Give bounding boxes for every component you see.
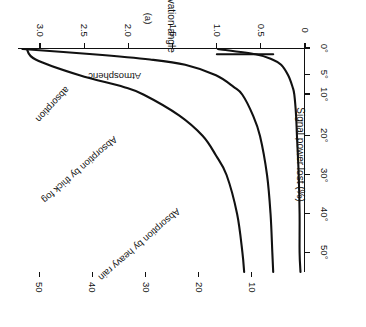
tick-label-power-loss-1: 2.5 bbox=[79, 24, 89, 37]
tick-power-loss-4 bbox=[216, 43, 217, 48]
tick-label-signal-power-1: 40 bbox=[88, 282, 98, 293]
tick-signal-power-4 bbox=[251, 272, 252, 277]
tick-elevation-6 bbox=[305, 252, 310, 253]
tick-power-loss-0 bbox=[40, 43, 41, 48]
tick-label-power-loss-0: 3.0 bbox=[35, 24, 45, 37]
tick-label-signal-power-2: 30 bbox=[141, 282, 151, 293]
tick-elevation-5 bbox=[305, 213, 310, 214]
tick-label-signal-power-0: 50 bbox=[35, 282, 45, 293]
tick-label-power-loss-5: 0.5 bbox=[256, 24, 266, 37]
tick-signal-power-3 bbox=[198, 272, 199, 277]
curve-label-atmospheric: Atmospheric bbox=[88, 71, 141, 82]
tick-label-power-loss-2: 2.0 bbox=[124, 24, 134, 37]
tick-elevation-2 bbox=[305, 93, 310, 94]
tick-label-elevation-3: 20° bbox=[319, 125, 329, 147]
tick-label-elevation-0: 0° bbox=[319, 37, 329, 59]
curve-absorption-heavy-rain bbox=[27, 49, 244, 272]
tick-signal-power-0 bbox=[39, 272, 40, 277]
tick-label-elevation-4: 30° bbox=[319, 164, 329, 186]
figure-root: Absorption by heavy rain Absorption by t… bbox=[0, 0, 366, 327]
figure-caption: (a) bbox=[143, 13, 154, 25]
plot-area: Absorption by heavy rain Absorption by t… bbox=[18, 48, 305, 272]
tick-label-elevation-2: 10° bbox=[319, 83, 329, 105]
tick-label-signal-power-4: 10 bbox=[247, 282, 257, 293]
tick-label-power-loss-4: 1.0 bbox=[212, 24, 222, 37]
tick-label-power-loss-6: 0 bbox=[300, 28, 310, 33]
figure-canvas: Absorption by heavy rain Absorption by t… bbox=[0, 0, 366, 327]
tick-label-elevation-5: 40° bbox=[319, 203, 329, 225]
tick-elevation-0 bbox=[305, 47, 310, 48]
curve-atmospheric-absorption bbox=[218, 49, 301, 272]
tick-label-elevation-6: 50° bbox=[319, 242, 329, 264]
tick-power-loss-2 bbox=[128, 43, 129, 48]
curves-layer bbox=[18, 49, 304, 272]
tick-elevation-1 bbox=[305, 74, 310, 75]
tick-power-loss-1 bbox=[84, 43, 85, 48]
tick-signal-power-1 bbox=[92, 272, 93, 277]
tick-label-signal-power-3: 20 bbox=[194, 282, 204, 293]
tick-power-loss-5 bbox=[260, 43, 261, 48]
axis-title-elevation-angle: Elevation angle bbox=[166, 0, 177, 53]
axis-title-signal-power-lost: Signal power lost (%) bbox=[295, 107, 306, 201]
tick-signal-power-2 bbox=[145, 272, 146, 277]
